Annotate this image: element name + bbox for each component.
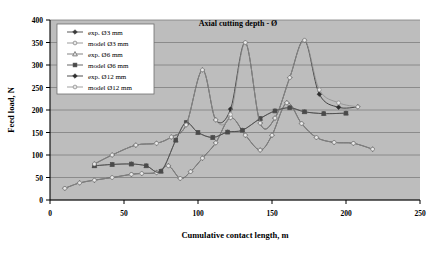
data-marker bbox=[189, 170, 193, 174]
data-marker bbox=[303, 110, 307, 114]
x-tick-label: 200 bbox=[340, 209, 352, 218]
chart-title: Axial cutting depth - Ø bbox=[199, 19, 278, 28]
legend-label-1: model Ø3 mm bbox=[88, 40, 129, 48]
y-axis-label: Feed load, N bbox=[6, 86, 16, 132]
x-tick-label: 150 bbox=[266, 209, 278, 218]
data-marker bbox=[356, 105, 360, 109]
data-marker bbox=[201, 156, 205, 160]
data-marker bbox=[159, 169, 163, 173]
y-tick-label: 250 bbox=[32, 84, 44, 93]
data-marker bbox=[140, 172, 144, 176]
data-marker bbox=[167, 164, 171, 168]
data-marker bbox=[73, 85, 77, 89]
data-marker bbox=[155, 141, 159, 145]
data-marker bbox=[130, 162, 134, 166]
data-marker bbox=[317, 88, 321, 92]
data-marker bbox=[211, 136, 215, 140]
data-marker bbox=[273, 116, 277, 120]
data-marker bbox=[315, 136, 319, 140]
y-tick-label: 50 bbox=[36, 174, 44, 183]
chart-svg: 050100150200250300350400 050100150200250… bbox=[0, 0, 446, 257]
data-marker bbox=[110, 153, 114, 157]
data-marker bbox=[352, 141, 356, 145]
data-marker bbox=[273, 109, 277, 113]
y-tick-label: 100 bbox=[32, 151, 44, 160]
chart-container: 050100150200250300350400 050100150200250… bbox=[0, 0, 446, 257]
legend-label-5: model Ø12 mm bbox=[88, 84, 132, 92]
data-marker bbox=[258, 148, 262, 152]
legend-label-4: exp. Ø12 mm bbox=[88, 73, 127, 81]
data-marker bbox=[344, 111, 348, 115]
data-marker bbox=[332, 141, 336, 145]
x-tick-label: 100 bbox=[192, 209, 204, 218]
y-tick-label: 200 bbox=[32, 106, 44, 115]
data-marker bbox=[285, 101, 289, 105]
data-marker bbox=[270, 133, 274, 137]
data-marker bbox=[78, 181, 82, 185]
data-marker bbox=[337, 101, 341, 105]
legend-label-0: exp. Ø3 mm bbox=[88, 29, 123, 37]
data-marker bbox=[241, 128, 245, 132]
x-tick-label: 0 bbox=[48, 209, 52, 218]
data-marker bbox=[214, 118, 218, 122]
data-marker bbox=[288, 76, 292, 80]
data-marker bbox=[130, 172, 134, 176]
data-marker bbox=[110, 176, 114, 180]
data-marker bbox=[371, 147, 375, 151]
y-tick-label: 350 bbox=[32, 39, 44, 48]
x-tick-label: 50 bbox=[120, 209, 128, 218]
data-marker bbox=[178, 177, 182, 181]
data-marker bbox=[169, 135, 173, 139]
data-marker bbox=[63, 186, 67, 190]
data-marker bbox=[243, 41, 247, 45]
x-axis-label: Cumulative contact length, m bbox=[181, 230, 288, 240]
data-marker bbox=[93, 162, 97, 166]
data-marker bbox=[214, 141, 218, 145]
data-marker bbox=[196, 131, 200, 135]
data-marker bbox=[201, 68, 205, 72]
data-marker bbox=[226, 130, 230, 134]
data-marker bbox=[73, 63, 77, 67]
y-tick-label: 0 bbox=[39, 196, 43, 205]
legend: exp. Ø3 mmmodel Ø3 mmexp. Ø6 mmmodel Ø6 … bbox=[57, 24, 154, 94]
data-marker bbox=[110, 163, 114, 167]
legend-label-3: model Ø6 mm bbox=[88, 62, 129, 70]
data-marker bbox=[288, 106, 292, 110]
data-marker bbox=[303, 38, 307, 42]
data-marker bbox=[300, 122, 304, 126]
data-marker bbox=[258, 121, 262, 125]
legend-label-2: exp. Ø6 mm bbox=[88, 51, 123, 59]
data-marker bbox=[73, 41, 77, 45]
data-marker bbox=[93, 178, 97, 182]
data-marker bbox=[184, 123, 188, 127]
data-marker bbox=[322, 112, 326, 116]
y-tick-label: 300 bbox=[32, 61, 44, 70]
data-marker bbox=[144, 164, 148, 168]
data-marker bbox=[174, 138, 178, 142]
y-tick-label: 400 bbox=[32, 16, 44, 25]
x-tick-label: 250 bbox=[414, 209, 426, 218]
data-marker bbox=[134, 143, 138, 147]
data-marker bbox=[229, 113, 233, 117]
data-marker bbox=[243, 133, 247, 137]
y-tick-label: 150 bbox=[32, 129, 44, 138]
